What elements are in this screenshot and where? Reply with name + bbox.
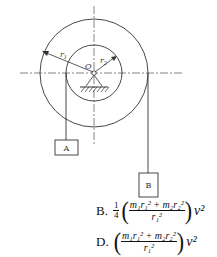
option-d: D. ( m₁r₁² + m₂r₂² r₁² ) v² <box>96 230 197 253</box>
block-b-label: B <box>146 181 152 190</box>
r2-label: r2 <box>100 56 107 66</box>
option-d-label: D. <box>96 234 109 250</box>
option-b-coefficient: 1 4 <box>113 201 120 220</box>
option-b-suffix: v² <box>194 203 204 219</box>
option-b-fraction: m₁r₁² + m₂r₂² r₁² <box>129 199 185 222</box>
r1-label: r1 <box>60 50 67 60</box>
option-b-label: B. <box>96 203 108 219</box>
block-a-label: A <box>63 144 70 153</box>
option-d-suffix: v² <box>186 234 196 250</box>
option-d-fraction: m₁r₁² + m₂r₂² r₁² <box>121 230 177 253</box>
ground-hatch <box>81 87 109 92</box>
option-b: B. 1 4 ( m₁r₁² + m₂r₂² r₁² ) v² <box>96 199 204 222</box>
center-label: O <box>85 62 92 71</box>
